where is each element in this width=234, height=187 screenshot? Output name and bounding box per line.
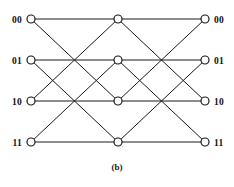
input-label-3: 11 [13,138,22,148]
network-node-out-3[interactable] [201,138,209,146]
edge-layer [34,19,202,142]
network-node-mid-3[interactable] [114,138,122,146]
network-node-mid-2[interactable] [114,97,122,105]
network-node-in-3[interactable] [27,138,35,146]
network-node-in-2[interactable] [27,97,35,105]
input-label-1: 01 [12,56,22,66]
network-graph-canvas: 0001101100011011 [0,0,234,187]
network-node-in-0[interactable] [27,15,35,23]
input-label-0: 00 [12,15,22,25]
network-node-out-2[interactable] [201,97,209,105]
network-node-out-1[interactable] [201,56,209,64]
figure-caption: (b) [0,162,234,172]
input-label-2: 10 [12,97,22,107]
network-node-out-0[interactable] [201,15,209,23]
node-layer [27,15,209,146]
output-label-2: 10 [214,97,224,107]
network-node-in-1[interactable] [27,56,35,64]
output-label-1: 01 [214,56,224,66]
network-node-mid-0[interactable] [114,15,122,23]
output-label-3: 11 [214,138,223,148]
network-node-mid-1[interactable] [114,56,122,64]
output-label-0: 00 [214,15,224,25]
node-label-layer: 0001101100011011 [12,15,224,148]
network-diagram-figure: 0001101100011011 (b) [0,0,234,187]
